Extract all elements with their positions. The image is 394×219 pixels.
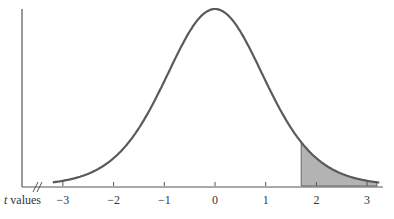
x-tick-label: −3 — [57, 193, 70, 208]
x-tick-label: 1 — [263, 193, 269, 208]
x-tick-label: −1 — [158, 193, 171, 208]
x-axis-label-text: values — [7, 193, 41, 207]
x-tick-label: 3 — [364, 193, 370, 208]
x-tick-label: 2 — [313, 193, 319, 208]
x-axis-label: t values — [4, 193, 41, 208]
plot-area — [0, 0, 394, 219]
x-tick-label: −2 — [107, 193, 120, 208]
density-curve — [53, 9, 380, 183]
t-distribution-chart: t values −3−2−10123 — [0, 0, 394, 219]
x-tick-label: 0 — [212, 193, 218, 208]
